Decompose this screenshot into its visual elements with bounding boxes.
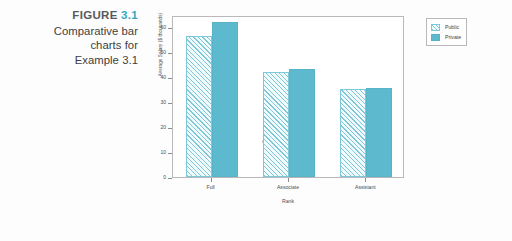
bar-group xyxy=(340,17,392,177)
bar-public-full xyxy=(186,36,212,177)
figure-label: FIGURE 3.1 xyxy=(6,8,138,23)
legend-item-private: Private xyxy=(431,32,461,42)
x-tick-mark xyxy=(211,178,212,182)
y-tick-label: 40 xyxy=(160,74,166,80)
plot-area xyxy=(173,17,403,177)
y-tick-mark xyxy=(168,103,172,104)
y-tick-mark xyxy=(168,153,172,154)
x-tick-label: Full xyxy=(181,184,241,190)
solid-swatch-icon xyxy=(431,34,440,41)
figure-word: FIGURE xyxy=(72,9,117,21)
hatched-swatch-icon xyxy=(431,24,440,31)
caption-line-3: Example 3.1 xyxy=(6,53,138,68)
x-tick-label: Associate xyxy=(258,184,318,190)
legend-item-public: Public xyxy=(431,22,461,32)
x-tick-mark xyxy=(365,178,366,182)
caption-line-2: charts for xyxy=(6,38,138,53)
bar-public-assistant xyxy=(340,89,366,177)
bar-private-associate xyxy=(289,69,315,177)
y-tick-mark xyxy=(168,53,172,54)
y-tick-label: 0 xyxy=(163,174,166,180)
figure-number: 3.1 xyxy=(121,9,138,21)
x-axis-title: Rank xyxy=(172,198,404,204)
x-tick-label: Assistant xyxy=(335,184,395,190)
figure-page: FIGURE 3.1 Comparative bar charts for Ex… xyxy=(0,0,512,241)
y-tick-label: 60 xyxy=(160,24,166,30)
bar-chart: Average Salary ($ thousands) 01020304050… xyxy=(143,6,418,231)
y-tick-label: 50 xyxy=(160,49,166,55)
y-tick-label: 10 xyxy=(160,149,166,155)
x-tick-mark xyxy=(288,178,289,182)
y-tick-mark xyxy=(168,128,172,129)
y-tick-mark xyxy=(168,28,172,29)
y-tick-mark xyxy=(168,78,172,79)
legend-label: Public xyxy=(445,24,459,30)
y-tick-label: 30 xyxy=(160,99,166,105)
y-tick-mark xyxy=(168,178,172,179)
chart-legend: PublicPrivate xyxy=(426,18,467,46)
bar-group xyxy=(186,17,238,177)
y-tick-label: 20 xyxy=(160,124,166,130)
plot-frame xyxy=(172,16,404,178)
bar-public-associate xyxy=(263,72,289,177)
figure-caption: FIGURE 3.1 Comparative bar charts for Ex… xyxy=(6,8,138,67)
bar-group xyxy=(263,17,315,177)
legend-label: Private xyxy=(445,34,461,40)
bar-private-full xyxy=(212,22,238,177)
bar-private-assistant xyxy=(366,88,392,177)
caption-line-1: Comparative bar xyxy=(6,24,138,39)
